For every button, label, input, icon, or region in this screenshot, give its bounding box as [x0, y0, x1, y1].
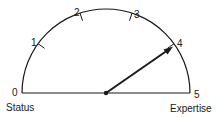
axis-label-status: Status [6, 102, 34, 113]
gauge-needle [106, 50, 168, 93]
axis-label-expertise: Expertise [170, 103, 212, 114]
needle-pivot [104, 91, 108, 95]
tick-label-4: 4 [177, 38, 183, 49]
tick-label-2: 2 [74, 7, 80, 18]
tick-label-3: 3 [134, 9, 140, 20]
tick-label-5: 5 [194, 89, 200, 100]
tick-marks [38, 13, 174, 48]
tick-2 [80, 13, 83, 21]
tick-1 [38, 44, 45, 49]
tick-label-1: 1 [31, 37, 37, 48]
tick-label-0: 0 [12, 87, 18, 98]
status-expertise-gauge: 0 1 2 3 4 5 Status Expertise [0, 0, 220, 117]
tick-3 [130, 13, 133, 21]
